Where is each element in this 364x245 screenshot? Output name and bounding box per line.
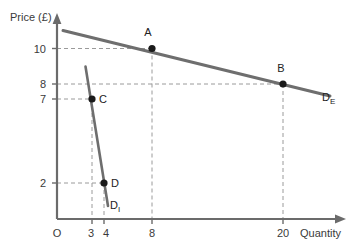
data-point-c <box>88 95 95 102</box>
point-label-c: C <box>99 93 107 105</box>
y-tick-label-7: 7 <box>40 93 46 105</box>
x-axis-title: Quantity <box>300 227 341 239</box>
data-points <box>88 45 286 187</box>
x-tick-label-3: 3 <box>88 227 94 239</box>
y-tick-label-8: 8 <box>40 78 46 90</box>
curve-label-inelastic-sub: I <box>118 205 120 214</box>
origin-label: O <box>53 227 62 239</box>
point-label-d: D <box>111 177 119 189</box>
data-point-b <box>279 80 286 87</box>
x-tick-label-20: 20 <box>277 227 289 239</box>
x-axis-arrow <box>335 215 346 224</box>
curve-label-elastic-main: D <box>322 91 330 103</box>
y-axis-title: Price (£) <box>10 11 52 23</box>
curve-label-inelastic: D I <box>110 199 120 214</box>
x-tick-label-4: 4 <box>103 227 109 239</box>
chart-canvas: A B C D D E D I 10 8 7 2 O 3 4 8 20 Pric… <box>0 0 364 245</box>
demand-curve-chart: A B C D D E D I 10 8 7 2 O 3 4 8 20 Pric… <box>0 0 364 245</box>
axes <box>52 13 346 224</box>
curve-label-inelastic-main: D <box>110 199 118 211</box>
elastic-demand-line <box>63 31 330 97</box>
data-point-d <box>100 179 107 186</box>
data-point-a <box>148 45 155 52</box>
guide-lines <box>57 49 283 220</box>
y-tick-label-10: 10 <box>34 43 46 55</box>
y-axis-arrow <box>53 13 62 24</box>
x-tick-label-8: 8 <box>149 227 155 239</box>
y-tick-label-2: 2 <box>40 177 46 189</box>
elastic-demand-curve <box>63 31 330 97</box>
curve-label-elastic: D E <box>322 91 335 106</box>
curve-label-elastic-sub: E <box>330 97 335 106</box>
point-label-a: A <box>144 26 152 38</box>
point-label-b: B <box>277 62 284 74</box>
